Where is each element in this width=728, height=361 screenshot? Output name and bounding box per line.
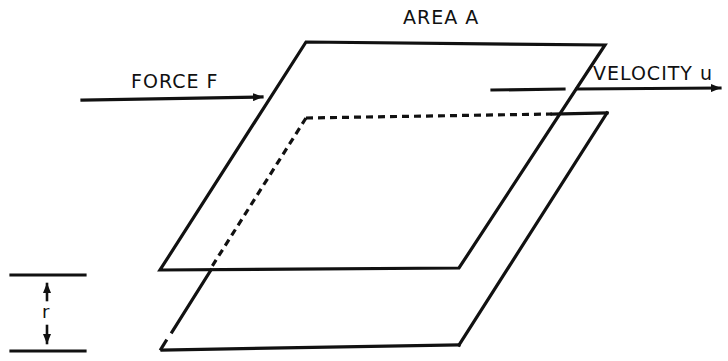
separation-label: r (42, 303, 50, 321)
velocity-arrow (492, 88, 720, 90)
force-arrow (82, 97, 262, 100)
velocity-label: VELOCITY u (593, 64, 713, 83)
force-label: FORCE F (131, 72, 218, 91)
viscosity-diagram (0, 0, 728, 361)
bottom-plate (161, 113, 607, 350)
top-plate (160, 42, 605, 270)
area-label: AREA A (403, 8, 479, 27)
